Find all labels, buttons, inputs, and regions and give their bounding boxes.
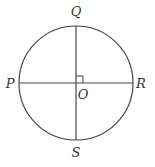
label-p: P bbox=[5, 76, 15, 91]
circle-diagram: Q S P R O bbox=[0, 0, 155, 167]
label-o: O bbox=[78, 87, 89, 102]
label-s: S bbox=[72, 145, 81, 160]
label-r: R bbox=[135, 76, 146, 91]
label-q: Q bbox=[71, 4, 82, 19]
right-angle-marker bbox=[76, 76, 83, 83]
